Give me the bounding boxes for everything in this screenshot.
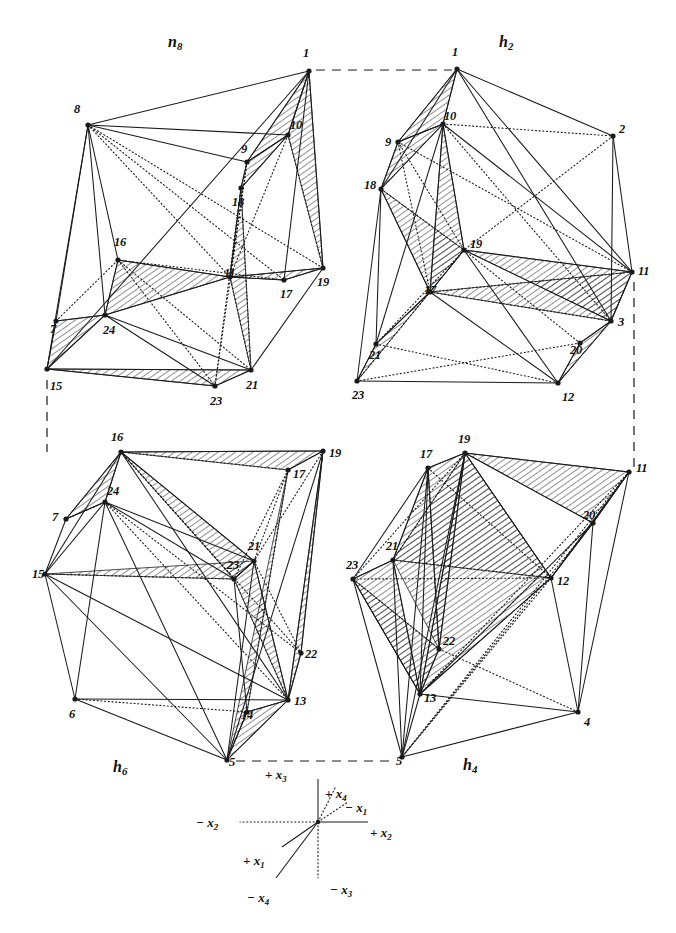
- panel-h2-vertex-23: [354, 378, 359, 383]
- panel-connectors: [47, 70, 634, 761]
- panel-h6-edge-19-13: [288, 451, 323, 700]
- axis-label-plus-x3: + x3: [265, 767, 287, 784]
- panel-h2-vertex-label-17: 17: [424, 283, 436, 298]
- panel-h2-vertex-1: [454, 66, 459, 71]
- axis-label-plus-x2: + x2: [370, 825, 392, 842]
- panel-h4-vertex-17: [425, 465, 430, 470]
- panel-h4-vertex-21: [390, 557, 395, 562]
- panel-h4-vertex-label-12: 12: [557, 574, 569, 589]
- panel-h4-vertex-label-20: 20: [583, 508, 595, 523]
- hatched-faces-layer: [45, 69, 632, 760]
- panel-n8-vertex-label-21: 21: [246, 378, 258, 393]
- panel-h6-vertex-19: [320, 448, 325, 453]
- panel-n8-vertex-19: [320, 265, 325, 270]
- panel-h6-vertex-label-21: 21: [248, 539, 260, 554]
- panel-h6-vertex-21: [251, 558, 256, 563]
- axis-label-plus-x3-subscript: 3: [282, 774, 286, 784]
- panel-n8-vertex-18: [238, 185, 243, 190]
- panel-h6-edge-7-15: [45, 519, 66, 574]
- panel-h2-edge-23-12: [357, 381, 558, 383]
- panel-h4-vertex-label-4: 4: [584, 715, 590, 730]
- axis-label-minus-x2-subscript: 2: [214, 822, 218, 832]
- panel-h6-vertex-17: [285, 467, 290, 472]
- panel-h2-edge-2-11: [613, 136, 632, 272]
- axis-label-minus-x4-subscript: 4: [265, 897, 269, 907]
- axis-label-plus-x1: + x1: [243, 853, 265, 870]
- panel-h4-vertex-13: [417, 691, 422, 696]
- panel-h4-vertex-label-21: 21: [386, 539, 398, 554]
- panel-h4-vertex-label-11: 11: [636, 461, 647, 476]
- panel-h2-vertex-label-18: 18: [364, 178, 376, 193]
- panel-n8-vertex-label-11: 11: [224, 266, 235, 281]
- panel-n8-vertex-1: [306, 68, 311, 73]
- panel-h6-dotted-edge-17-23: [234, 470, 288, 579]
- panel-h6-vertex-label-14: 14: [241, 708, 253, 723]
- panel-n8-title-subscript: 8: [177, 40, 182, 52]
- panel-h6-edge-24-6: [75, 502, 105, 699]
- axis-origin-point: [316, 820, 320, 824]
- panel-h6-vertex-label-24: 24: [107, 484, 119, 499]
- panel-n8-vertex-label-17: 17: [280, 287, 292, 302]
- panel-h2-title: h2: [499, 33, 513, 52]
- panel-h4-edge-20-12: [551, 523, 593, 578]
- panel-h2-vertex-label-11: 11: [638, 264, 649, 279]
- panel-n8-edge-8-10: [88, 125, 288, 135]
- panel-n8-vertex-23: [212, 383, 217, 388]
- panel-h4-vertex-label-23: 23: [346, 558, 358, 573]
- panel-n8-edge-1-8: [88, 71, 309, 125]
- panel-h6-edge-6-13: [75, 699, 288, 700]
- panel-h4-vertex-label-19: 19: [458, 432, 470, 447]
- panel-h4-vertex-11: [626, 469, 631, 474]
- panel-n8-vertex-label-1: 1: [303, 46, 309, 61]
- panel-n8-vertex-label-19: 19: [317, 275, 329, 290]
- panel-h6-vertex-7: [63, 516, 68, 521]
- panel-h2-vertex-label-19: 19: [470, 237, 482, 252]
- panel-h6-vertex-label-15: 15: [32, 567, 44, 582]
- panel-h6-vertex-label-17: 17: [293, 467, 305, 482]
- panel-h4-edge-12-4: [551, 578, 578, 712]
- panel-h2-vertex-label-20: 20: [570, 343, 582, 358]
- panel-n8-vertex-label-18: 18: [232, 195, 244, 210]
- axis-label-plus-x2-subscript: 2: [387, 832, 391, 842]
- axis-ray-minus-x4: [276, 822, 318, 878]
- panel-h6-edge-15-6: [45, 574, 75, 699]
- panel-h6-vertex-6: [72, 696, 77, 701]
- panel-h2-vertex-label-21: 21: [369, 348, 381, 363]
- panel-h2-vertex-3: [608, 318, 613, 323]
- panel-h6-edge-15-5: [45, 574, 227, 760]
- panel-n8-vertex-17: [281, 277, 286, 282]
- panel-h6-vertex-label-5: 5: [229, 755, 235, 770]
- panel-h2-vertex-19: [461, 247, 466, 252]
- panel-h6-edge-6-5: [75, 699, 227, 760]
- panel-h2-vertex-label-10: 10: [444, 109, 456, 124]
- panel-h2-vertex-9: [395, 139, 400, 144]
- panel-h2-vertex-11: [629, 269, 634, 274]
- panel-h6-vertex-13: [285, 697, 290, 702]
- axis-label-minus-x1: − x1: [345, 800, 367, 817]
- panel-n8-vertex-label-23: 23: [210, 394, 222, 409]
- panel-h2-dotted-edge-2-19: [464, 136, 613, 250]
- panel-h4-vertex-23: [350, 576, 355, 581]
- panel-n8-edge-1-15: [47, 71, 309, 369]
- axis-label-minus-x3: − x3: [330, 882, 352, 899]
- panel-h2-dotted-edge-10-2: [443, 124, 613, 136]
- panel-h6-vertex-label-6: 6: [69, 707, 75, 722]
- panel-h4-edge-5-4: [402, 712, 578, 757]
- panel-n8-vertex-label-24: 24: [103, 323, 115, 338]
- panel-h4-vertex-4: [575, 709, 580, 714]
- panel-h4-edge-13-4: [420, 694, 578, 712]
- panel-h2-vertex-18: [378, 186, 383, 191]
- panel-h6-vertex-label-16: 16: [111, 430, 123, 445]
- panel-h4-vertex-12: [548, 575, 553, 580]
- panel-h4-title: h4: [463, 756, 477, 775]
- panel-n8-dotted-edge-8-11: [88, 125, 230, 277]
- panel-n8-vertex-8: [85, 122, 90, 127]
- axis-label-minus-x4: − x4: [247, 890, 269, 907]
- panel-n8-vertex-10: [285, 132, 290, 137]
- axis-ray-plus-x1: [282, 822, 318, 847]
- panel-h2-vertex-label-9: 9: [385, 135, 391, 150]
- axis-label-minus-x3-subscript: 3: [348, 889, 352, 899]
- panel-h2-edge-1-11: [457, 69, 632, 272]
- panel-n8-face-2: [105, 260, 230, 315]
- panel-h6-vertex-label-23: 23: [227, 558, 239, 573]
